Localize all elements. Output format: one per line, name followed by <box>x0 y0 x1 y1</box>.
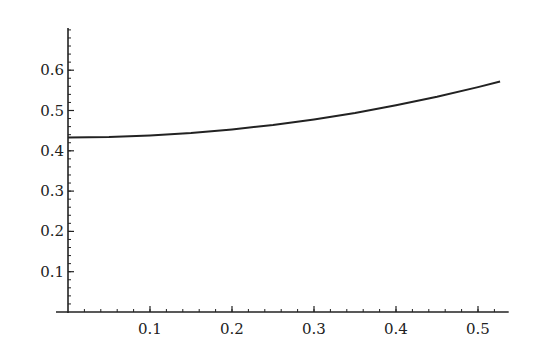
data-curve <box>68 82 500 138</box>
tick-labels: 0.10.20.30.40.50.10.20.30.40.50.6 <box>40 61 490 338</box>
line-chart: 0.10.20.30.40.50.10.20.30.40.50.6 <box>0 0 538 364</box>
ticks <box>68 30 494 312</box>
y-tick-label: 0.1 <box>40 263 64 281</box>
y-tick-label: 0.5 <box>40 102 64 120</box>
x-tick-label: 0.2 <box>220 320 244 338</box>
y-tick-label: 0.2 <box>40 222 64 240</box>
x-tick-label: 0.5 <box>466 320 490 338</box>
axes <box>56 28 509 313</box>
y-tick-label: 0.6 <box>40 61 64 79</box>
x-tick-label: 0.1 <box>138 320 162 338</box>
x-tick-label: 0.3 <box>302 320 326 338</box>
y-tick-label: 0.4 <box>40 142 64 160</box>
x-tick-label: 0.4 <box>384 320 408 338</box>
y-tick-label: 0.3 <box>40 182 64 200</box>
